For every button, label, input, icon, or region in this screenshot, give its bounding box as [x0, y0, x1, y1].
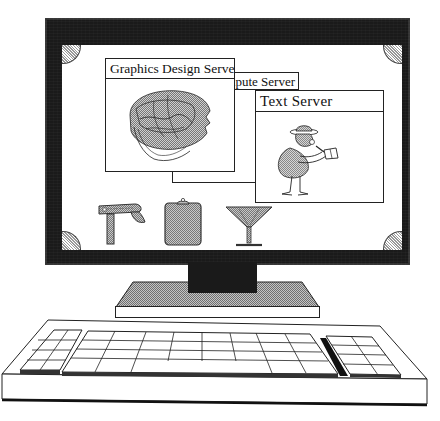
window-title-text: npute Server [229, 74, 295, 89]
window-text-server[interactable]: Text Server [255, 90, 384, 203]
stapler-icon[interactable] [95, 200, 147, 246]
monitor-stand-front-edge [115, 306, 320, 318]
interlocking-heads-illustration [106, 79, 234, 170]
window-title-text: Graphics Design Server [110, 61, 234, 76]
monitor-stand-neck [188, 262, 257, 293]
window-body-graphics [106, 79, 234, 170]
window-body-text [256, 112, 383, 201]
window-title-text: Text Server [260, 93, 333, 109]
screen-desktop[interactable]: npute Server Graphics Design Server [62, 45, 402, 250]
window-title-text-server[interactable]: Text Server [256, 91, 383, 112]
martini-glass-icon[interactable] [224, 205, 274, 249]
main-keyboard-keys[interactable] [62, 331, 338, 378]
window-graphics-design-server[interactable]: Graphics Design Server [105, 58, 235, 172]
keyboard[interactable] [0, 318, 440, 421]
window-title-graphics-design-server[interactable]: Graphics Design Server [106, 59, 234, 79]
reporter-character-illustration [256, 112, 383, 201]
clipboard-icon[interactable] [163, 197, 203, 247]
corner-handle-top-left-icon[interactable] [62, 45, 81, 64]
corner-handle-bottom-left-icon[interactable] [62, 231, 81, 250]
monitor: npute Server Graphics Design Server [0, 0, 440, 320]
corner-handle-bottom-right-icon[interactable] [383, 231, 402, 250]
corner-handle-top-right-icon[interactable] [383, 45, 402, 64]
